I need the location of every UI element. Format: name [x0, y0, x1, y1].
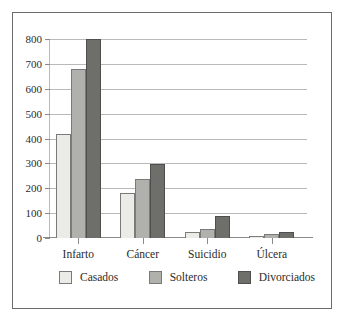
legend-swatch-icon	[238, 271, 251, 284]
bar[interactable]	[120, 193, 135, 238]
bar[interactable]	[215, 216, 230, 238]
x-tick-label: Suicidio	[188, 249, 226, 261]
y-tick-label: 100	[26, 208, 43, 219]
bar[interactable]	[150, 164, 165, 238]
bar[interactable]	[71, 69, 86, 238]
legend-item[interactable]: Divorciados	[238, 271, 315, 284]
legend-item[interactable]: Solteros	[149, 271, 208, 284]
legend-item[interactable]: Casados	[59, 271, 118, 284]
chart-figure: 0100200300400500600700800 InfartoCáncerS…	[12, 12, 332, 309]
x-tick-label: Infarto	[63, 249, 94, 261]
y-tick-label: 0	[37, 233, 43, 244]
legend-label: Casados	[80, 272, 118, 284]
bar-group: Cáncer	[114, 39, 179, 238]
bar[interactable]	[249, 236, 264, 238]
y-tick-label: 700	[26, 58, 43, 69]
x-tick-mark	[207, 238, 208, 244]
legend-swatch-icon	[149, 271, 162, 284]
bar[interactable]	[200, 229, 215, 238]
y-tick-label: 200	[26, 183, 43, 194]
bar[interactable]	[185, 232, 200, 238]
y-tick-label: 500	[26, 108, 43, 119]
y-tick-label: 300	[26, 158, 43, 169]
y-tick-label: 600	[26, 83, 43, 94]
bar-group-bars	[56, 39, 101, 238]
bar[interactable]	[86, 39, 101, 238]
y-tick-mark	[45, 238, 50, 239]
legend-label: Solteros	[170, 272, 208, 284]
x-tick-label: Cáncer	[126, 249, 159, 261]
bar-group: Suicidio	[178, 39, 243, 238]
bar[interactable]	[135, 179, 150, 238]
x-tick-mark	[272, 238, 273, 244]
legend-label: Divorciados	[259, 272, 315, 284]
bar-group: Úlcera	[243, 39, 308, 238]
bar-group-bars	[120, 39, 165, 238]
bar-group-bars	[249, 39, 294, 238]
x-tick-mark	[143, 238, 144, 244]
legend-swatch-icon	[59, 271, 72, 284]
bar[interactable]	[56, 134, 71, 238]
y-tick-label: 400	[26, 133, 43, 144]
chart-legend: CasadosSolterosDivorciados	[53, 271, 321, 284]
x-tick-label: Úlcera	[256, 249, 287, 261]
plot-area: 0100200300400500600700800 InfartoCáncerS…	[49, 39, 307, 238]
x-tick-mark	[78, 238, 79, 244]
bar-group: Infarto	[49, 39, 114, 238]
bar-group-bars	[185, 39, 230, 238]
y-tick-label: 800	[26, 34, 43, 45]
bar[interactable]	[279, 232, 294, 238]
